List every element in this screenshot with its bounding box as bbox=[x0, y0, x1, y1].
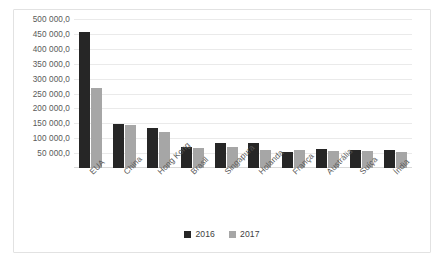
y-axis-tick-label: 450 000,0 bbox=[33, 29, 70, 38]
y-axis-tick-label: 200 000,0 bbox=[33, 104, 70, 113]
x-axis-labels: EUAChinaHong KongBrasilSingapuraHolandaF… bbox=[74, 170, 412, 222]
bar-group bbox=[142, 19, 176, 168]
y-axis-tick-label: 150 000,0 bbox=[33, 119, 70, 128]
y-axis-tick-label: 100 000,0 bbox=[33, 134, 70, 143]
bar-group bbox=[311, 19, 345, 168]
y-axis-labels: 500 000,0450 000,0400 000,0350 000,0300 … bbox=[13, 19, 74, 168]
bar-2016[interactable] bbox=[147, 128, 158, 168]
y-axis-tick-label: 250 000,0 bbox=[33, 89, 70, 98]
bar-group bbox=[344, 19, 378, 168]
legend-item[interactable]: 2017 bbox=[229, 229, 260, 239]
bar-2016[interactable] bbox=[215, 143, 226, 168]
bar-2017[interactable] bbox=[91, 88, 102, 168]
bar-2016[interactable] bbox=[384, 150, 395, 168]
legend-label: 2016 bbox=[195, 229, 215, 239]
chart-legend: 20162017 bbox=[13, 229, 431, 239]
bar-2016[interactable] bbox=[79, 32, 90, 168]
plot-area bbox=[74, 19, 412, 168]
bar-group bbox=[378, 19, 412, 168]
bar-group bbox=[209, 19, 243, 168]
legend-swatch-icon bbox=[229, 231, 236, 238]
bar-2016[interactable] bbox=[316, 149, 327, 168]
chart-container: 500 000,0450 000,0400 000,0350 000,0300 … bbox=[0, 0, 444, 263]
legend-swatch-icon bbox=[184, 231, 191, 238]
bar-group bbox=[74, 19, 108, 168]
bar-2016[interactable] bbox=[113, 124, 124, 168]
legend-item[interactable]: 2016 bbox=[184, 229, 215, 239]
legend-label: 2017 bbox=[240, 229, 260, 239]
y-axis-tick-label: 350 000,0 bbox=[33, 59, 70, 68]
y-axis-tick-label: 50 000,0 bbox=[37, 149, 70, 158]
bar-group bbox=[277, 19, 311, 168]
y-axis-tick-label: 500 000,0 bbox=[33, 15, 70, 24]
bar-groups bbox=[74, 19, 412, 168]
bar-group bbox=[108, 19, 142, 168]
y-axis-tick-label: 400 000,0 bbox=[33, 44, 70, 53]
y-axis-tick-label: 300 000,0 bbox=[33, 74, 70, 83]
